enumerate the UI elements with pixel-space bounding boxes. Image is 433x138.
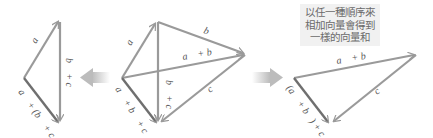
label-a: a⃗ — [123, 30, 139, 46]
label-b: b⃗ — [202, 25, 218, 40]
left-triangle: a⃗ b⃗ + c⃗ a⃗ + (b⃗ + c⃗) — [16, 22, 75, 138]
label-c: c⃗ — [204, 78, 220, 94]
label-b-plus-c: b⃗ + c⃗ — [64, 58, 75, 95]
arrow-right-icon — [252, 68, 283, 87]
label-a: a⃗ — [28, 28, 44, 45]
label-b-plus-c: b⃗ + c⃗ — [164, 80, 175, 117]
label-c: c⃗ — [371, 80, 387, 96]
vector-a — [122, 24, 155, 78]
label-sum: a⃗ + (b⃗ + c⃗) — [16, 87, 65, 138]
caption-line: 相加向量會得到 — [302, 19, 378, 32]
right-triangle: a⃗ + b⃗ c⃗ (a⃗ + b⃗) + c⃗ — [284, 49, 416, 138]
center-figure: a⃗ b⃗ a⃗ + b⃗ b⃗ + c⃗ c⃗ a⃗ + b⃗ + c⃗ — [113, 22, 245, 138]
vector-a — [24, 22, 58, 78]
label-sum: (a⃗ + b⃗) + c⃗ — [284, 83, 333, 138]
arrow-left-icon — [80, 68, 110, 87]
caption-line: 以任一種順序來 — [302, 6, 378, 19]
caption-box: 以任一種順序來 相加向量會得到 一樣的向量和 — [300, 4, 380, 46]
caption-line: 一樣的向量和 — [302, 31, 378, 44]
